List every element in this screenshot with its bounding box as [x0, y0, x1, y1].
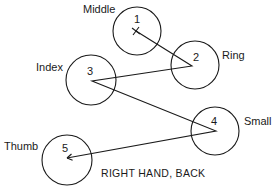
finger-label-small: Small [244, 115, 272, 127]
finger-label-middle: Middle [83, 3, 115, 15]
finger-label-thumb: Thumb [4, 140, 38, 152]
finger-order-number: 1 [134, 13, 140, 25]
finger-order-number: 4 [211, 115, 217, 127]
finger-label-index: Index [36, 61, 63, 73]
finger-order-number: 5 [62, 142, 68, 154]
finger-label-ring: Ring [222, 49, 245, 61]
finger-circle-index [66, 55, 116, 105]
diagram-caption: RIGHT HAND, BACK [101, 167, 205, 179]
finger-circle-ring [171, 41, 219, 89]
finger-order-number: 2 [193, 51, 199, 63]
finger-labels: MiddleRingIndexSmallThumb [4, 3, 272, 152]
finger-order-number: 3 [87, 65, 93, 77]
start-x-mark-icon [132, 27, 140, 35]
finger-order-diagram: MiddleRingIndexSmallThumb 12345 RIGHT HA… [0, 0, 274, 187]
